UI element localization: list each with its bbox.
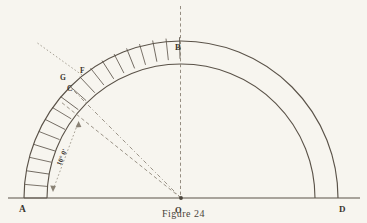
angle-arrowhead-lower [50, 185, 56, 192]
graduation-subdivisions [25, 39, 168, 187]
label-C: C [67, 84, 72, 93]
label-B: B [175, 42, 181, 52]
center-point-dot [179, 196, 183, 200]
semicircle-protractor-svg: A O D B C G F 10° 0' [0, 0, 367, 223]
label-G: G [60, 73, 66, 82]
graduation-lines [24, 37, 180, 198]
construction-ray-OG [61, 102, 181, 198]
figure-24-diagram: A O D B C G F 10° 0' Figure 24 [0, 0, 367, 223]
dotted-extension-ray [36, 42, 82, 75]
angle-arrowhead-upper [76, 121, 82, 127]
figure-caption: Figure 24 [0, 208, 367, 219]
angle-value-label: 10° 0' [55, 148, 69, 167]
label-F: F [80, 66, 85, 75]
